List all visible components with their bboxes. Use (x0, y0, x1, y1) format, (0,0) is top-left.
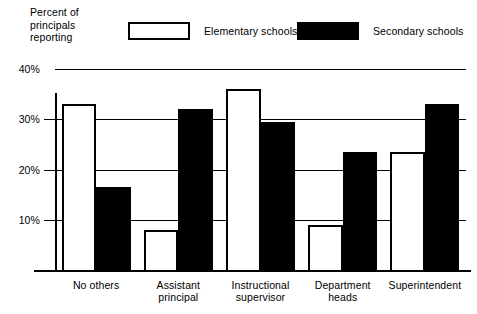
bar-department-heads-secondary-schools (343, 152, 378, 270)
bar-chart: Percent of principals reporting Elementa… (0, 0, 477, 314)
category-label-line: No others (55, 279, 137, 291)
category-label-superintendent: Superintendent (384, 279, 466, 291)
bar-instructional-supervisor-elementary-schools (226, 89, 261, 270)
y-tick-label-40: 40% (0, 64, 40, 75)
category-label-department-heads: Departmentheads (302, 279, 384, 304)
bar-superintendent-secondary-schools (425, 104, 460, 270)
category-label-line: principal (137, 291, 219, 303)
y-tick-20 (44, 170, 55, 171)
gridline-40 (55, 69, 466, 70)
bar-assistant-principal-elementary-schools (144, 230, 179, 270)
category-label-line: Assistant (137, 279, 219, 291)
y-axis-line (55, 93, 57, 271)
category-label-line: Superintendent (384, 279, 466, 291)
plot-area: 40%30%20%10% No othersAssistantprincipal… (0, 0, 477, 314)
category-label-line: heads (302, 291, 384, 303)
category-label-line: Instructional (219, 279, 301, 291)
gridline-30 (55, 119, 466, 120)
bar-assistant-principal-secondary-schools (178, 109, 213, 270)
bar-instructional-supervisor-secondary-schools (261, 122, 296, 270)
y-tick-label-30: 30% (0, 114, 40, 125)
y-tick-label-10: 10% (0, 215, 40, 226)
bar-no-others-secondary-schools (96, 187, 131, 270)
category-label-instructional-supervisor: Instructionalsupervisor (219, 279, 301, 304)
bar-no-others-elementary-schools (62, 104, 97, 270)
category-label-no-others: No others (55, 279, 137, 291)
bar-superintendent-elementary-schools (390, 152, 425, 270)
category-label-line: Department (302, 279, 384, 291)
y-tick-30 (44, 119, 55, 120)
y-tick-label-20: 20% (0, 165, 40, 176)
y-tick-10 (44, 220, 55, 221)
category-label-line: supervisor (219, 291, 301, 303)
bar-department-heads-elementary-schools (308, 225, 343, 270)
x-axis-baseline (34, 270, 471, 272)
category-label-assistant-principal: Assistantprincipal (137, 279, 219, 304)
